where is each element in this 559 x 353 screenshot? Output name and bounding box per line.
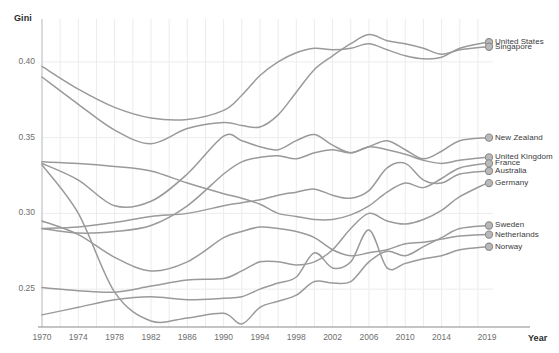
- series-lines: [42, 35, 487, 324]
- y-tick-label: 0.25: [5, 283, 35, 293]
- series-line: [42, 134, 487, 207]
- series-line: [42, 35, 487, 144]
- series-line: [42, 42, 487, 120]
- series-endpoint-marker[interactable]: [485, 243, 492, 250]
- legend-label-sweden[interactable]: Sweden: [495, 220, 524, 229]
- x-tick-label: 2019: [467, 332, 507, 342]
- y-tick-label: 0.40: [5, 56, 35, 66]
- x-tick-label: 1998: [276, 332, 316, 342]
- legend-label-norway[interactable]: Norway: [495, 242, 522, 251]
- x-tick-label: 2010: [385, 332, 425, 342]
- x-tick-label: 1990: [204, 332, 244, 342]
- legend-label-netherlands[interactable]: Netherlands: [495, 230, 539, 239]
- x-tick-label: 1994: [240, 332, 280, 342]
- series-endpoint-marker[interactable]: [485, 43, 492, 50]
- series-line: [42, 162, 487, 220]
- x-tick-label: 1970: [22, 332, 62, 342]
- legend-label-new-zealand[interactable]: New Zealand: [495, 133, 543, 142]
- y-tick-label: 0.30: [5, 207, 35, 217]
- series-line: [42, 138, 487, 234]
- legend-label-singapore[interactable]: Singapore: [495, 42, 532, 51]
- x-tick-label: 2006: [349, 332, 389, 342]
- chart-canvas: [0, 0, 559, 353]
- y-tick-label: 0.35: [5, 132, 35, 142]
- series-endpoint-marker[interactable]: [485, 167, 492, 174]
- gini-line-chart: Gini Year 0.250.300.350.40 1970197419781…: [0, 0, 559, 353]
- axis-lines: [38, 19, 530, 327]
- x-tick-label: 1974: [58, 332, 98, 342]
- series-endpoint-marker[interactable]: [485, 222, 492, 229]
- series-endpoint-marker[interactable]: [485, 179, 492, 186]
- x-tick-label: 2002: [313, 332, 353, 342]
- series-line: [42, 221, 487, 271]
- series-endpoint-marker[interactable]: [485, 134, 492, 141]
- x-tick-label: 1982: [131, 332, 171, 342]
- legend-label-germany[interactable]: Germany: [495, 178, 528, 187]
- gridlines: [42, 19, 493, 327]
- series-endpoint-marker[interactable]: [485, 231, 492, 238]
- series-line: [42, 163, 487, 229]
- series-endpoint-marker[interactable]: [485, 160, 492, 167]
- legend-label-australia[interactable]: Australia: [495, 166, 527, 175]
- x-tick-label: 1986: [167, 332, 207, 342]
- series-line: [42, 183, 487, 292]
- x-tick-label: 2014: [422, 332, 462, 342]
- x-tick-label: 1978: [95, 332, 135, 342]
- endpoint-markers: [485, 39, 492, 251]
